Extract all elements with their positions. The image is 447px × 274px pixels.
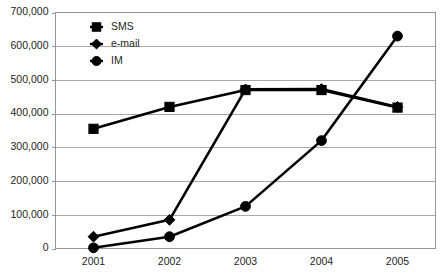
legend-label: IM [111, 54, 123, 66]
legend-label: e-mail [111, 37, 140, 49]
legend-label: SMS [111, 20, 134, 32]
y-axis-tick-label: 0 [43, 241, 49, 253]
y-axis-tick-label: 300,000 [11, 140, 49, 152]
data-point-marker [393, 31, 403, 41]
line-chart-figure: 0100,000200,000300,000400,000500,000600,… [0, 0, 447, 274]
y-axis-tick-label: 700,000 [11, 5, 49, 17]
data-point-marker [89, 243, 99, 253]
square-marker-icon [92, 23, 100, 31]
series-im [89, 31, 403, 253]
data-point-marker [165, 102, 174, 111]
diamond-marker-icon [92, 39, 102, 49]
x-axis-tick-label: 2003 [234, 255, 258, 267]
x-axis-tick-label: 2005 [386, 255, 410, 267]
legend-item-im: IM [90, 54, 123, 66]
gridlines-group [56, 47, 436, 216]
series-line [94, 36, 398, 248]
x-axis-labels-group: 20012002200320042005 [82, 255, 410, 267]
data-point-marker [165, 232, 175, 242]
chart-canvas: 0100,000200,000300,000400,000500,000600,… [0, 0, 447, 274]
x-axis-tick-label: 2001 [82, 255, 106, 267]
chart-legend: SMSe-mailIM [90, 20, 140, 66]
data-point-marker [164, 214, 175, 225]
y-axis-tick-label: 500,000 [11, 73, 49, 85]
circle-marker-icon [92, 56, 101, 65]
series-line [94, 89, 398, 237]
y-axis-tick-label: 200,000 [11, 174, 49, 186]
y-axis-tick-label: 400,000 [11, 106, 49, 118]
x-axis-tick-label: 2002 [158, 255, 182, 267]
legend-item-sms: SMS [90, 20, 134, 32]
y-axis-ticks-group [52, 14, 56, 250]
x-axis-tick-label: 2004 [310, 255, 334, 267]
y-axis-tick-label: 100,000 [11, 208, 49, 220]
y-axis-labels-group: 0100,000200,000300,000400,000500,000600,… [11, 5, 49, 253]
data-point-marker [241, 201, 251, 211]
data-point-marker [88, 231, 99, 242]
data-series-group [88, 31, 403, 253]
series-e-mail [88, 84, 403, 242]
data-point-marker [89, 124, 98, 133]
legend-item-e-mail: e-mail [90, 37, 140, 49]
data-point-marker [317, 136, 327, 146]
y-axis-tick-label: 600,000 [11, 39, 49, 51]
